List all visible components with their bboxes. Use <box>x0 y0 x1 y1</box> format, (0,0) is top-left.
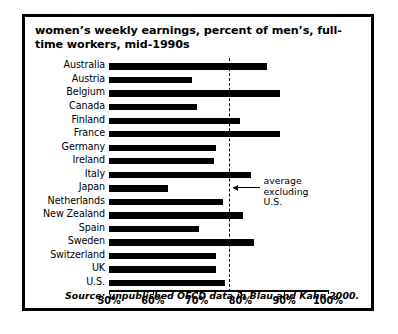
category-label: U.S. <box>86 276 105 287</box>
average-excluding-us-line <box>229 58 230 292</box>
category-label: Japan <box>79 181 105 192</box>
category-label: Ireland <box>73 154 105 165</box>
bar <box>109 253 216 259</box>
category-label: France <box>74 127 105 138</box>
bar <box>109 280 225 286</box>
category-label: UK <box>92 262 105 273</box>
chart-title: women’s weekly earnings, percent of men’… <box>35 24 355 51</box>
bar <box>109 212 243 218</box>
bar <box>109 118 240 124</box>
annotation-line-1: average <box>263 176 308 187</box>
annotation-arrow <box>233 187 260 188</box>
category-label: Belgium <box>66 86 105 97</box>
annotation-line-3: U.S. <box>263 197 308 208</box>
category-label: New Zealand <box>43 208 105 219</box>
plot-area: AustraliaAustriaBelgiumCanadaFinlandFran… <box>109 60 328 290</box>
bar <box>109 239 254 245</box>
category-label: Netherlands <box>48 195 105 206</box>
category-label: Sweden <box>68 235 105 246</box>
category-label: Spain <box>79 222 105 233</box>
bar <box>109 77 192 83</box>
bar <box>109 266 216 272</box>
bar <box>109 199 223 205</box>
category-label: Switzerland <box>50 249 105 260</box>
bar <box>109 226 199 232</box>
bar <box>109 145 216 151</box>
bar <box>109 90 280 96</box>
category-label: Canada <box>69 100 105 111</box>
category-label: Australia <box>63 59 105 70</box>
bar <box>109 185 168 191</box>
bar <box>109 158 214 164</box>
source-note: Source: unpublished OECD data in Blau an… <box>65 290 359 301</box>
average-annotation: average excluding U.S. <box>263 176 308 208</box>
figure-frame: women’s weekly earnings, percent of men’… <box>22 14 374 311</box>
bar <box>109 63 267 69</box>
category-label: Italy <box>85 168 105 179</box>
bar <box>109 131 280 137</box>
category-label: Austria <box>72 73 105 84</box>
bar <box>109 104 197 110</box>
category-label: Finland <box>71 114 105 125</box>
category-label: Germany <box>62 141 105 152</box>
